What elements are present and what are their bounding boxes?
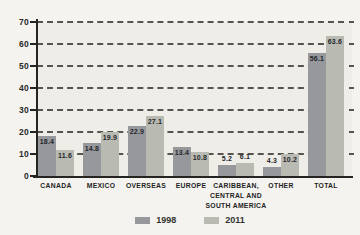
value-label-2011-other: 10.2 [277,156,303,163]
y-tick-label-70: 70 [7,17,29,27]
gridline-40 [37,87,344,89]
statistics-bar-chart: 01020304050607018.411.6CANADA14.819.9MEX… [0,0,360,235]
y-axis-line [36,19,39,177]
y-tick-label-20: 20 [7,127,29,137]
chart-legend: 1998 2011 [0,215,360,225]
bar-2011-caribbean [236,163,254,176]
right-tick-70 [349,21,354,23]
value-label-1998-canada: 18.4 [34,138,60,145]
legend-label-2011: 2011 [225,215,245,225]
right-tick-30 [349,109,354,111]
value-label-2011-caribbean: 6.1 [232,153,258,160]
plot-area: 01020304050607018.411.6CANADA14.819.9MEX… [0,0,360,235]
legend-swatch-2011 [204,217,219,224]
right-tick-60 [349,43,354,45]
y-tick-label-30: 30 [7,105,29,115]
x-axis-line [33,176,353,179]
right-tick-10 [349,153,354,155]
y-tick-label-40: 40 [7,83,29,93]
category-label-total: TOTAL [284,181,360,191]
gridline-60 [37,43,344,45]
legend-label-1998: 1998 [156,215,176,225]
gridline-20 [37,131,344,133]
legend-item-2011: 2011 [204,215,245,225]
value-label-1998-total: 56.1 [304,55,330,62]
right-tick-20 [349,131,354,133]
legend-item-1998: 1998 [135,215,176,225]
value-label-2011-mexico: 19.9 [97,134,123,141]
value-label-2011-europe: 10.8 [187,154,213,161]
value-label-2011-overseas: 27.1 [142,118,168,125]
value-label-2011-total: 63.6 [322,38,348,45]
gridline-70 [37,21,344,23]
right-tick-50 [349,65,354,67]
bar-1998-caribbean [218,165,236,176]
legend-swatch-1998 [135,217,150,224]
bar-1998-total [308,53,326,176]
gridline-50 [37,65,344,67]
y-tick-label-10: 10 [7,149,29,159]
y-tick-label-60: 60 [7,39,29,49]
gridline-30 [37,109,344,111]
right-tick-40 [349,87,354,89]
y-tick-label-0: 0 [7,171,29,181]
value-label-2011-canada: 11.6 [52,152,78,159]
value-label-1998-mexico: 14.8 [79,145,105,152]
y-tick-label-50: 50 [7,61,29,71]
value-label-1998-overseas: 22.9 [124,128,150,135]
